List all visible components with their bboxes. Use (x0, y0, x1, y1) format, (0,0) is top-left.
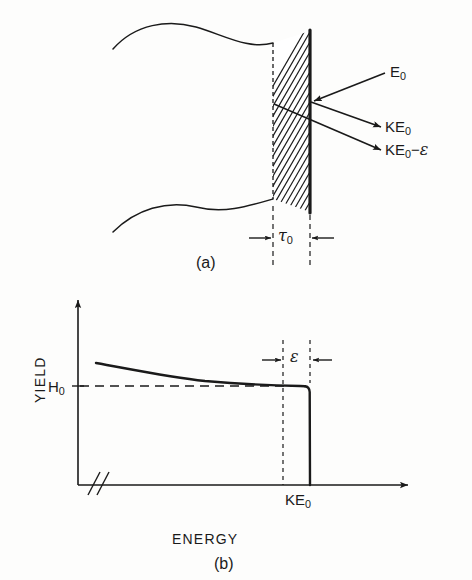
y-axis-label: YIELD (33, 357, 47, 403)
tau-symbol: τ (278, 226, 287, 245)
caption-panel-b: (b) (214, 556, 234, 572)
incident-beam-arrow (314, 73, 385, 101)
epsilon-symbol-panel-a: ɛ (420, 140, 429, 159)
panel-b-drawing (72, 300, 408, 495)
panel-a-drawing (113, 8, 385, 322)
figure-container: E0 KE0 KE0−ɛ τ0 (a) YIELD H0 ɛ KE0 ENERG… (0, 0, 472, 580)
label-depth-scattered-energy: KE0−ɛ (385, 142, 428, 160)
yield-edge-drop (305, 386, 310, 485)
x-tick-label-ke0: KE0 (285, 492, 311, 510)
label-epsilon-width: ɛ (290, 349, 299, 365)
sample-top-edge (113, 23, 273, 49)
surface-scatter-arrow (311, 102, 381, 127)
figure-drawing (0, 0, 472, 580)
y-tick-label-h0: H0 (48, 379, 65, 397)
label-surface-scattered-energy: KE0 (385, 119, 411, 137)
x-axis-label: ENERGY (172, 532, 238, 546)
label-layer-thickness: τ0 (278, 228, 293, 246)
label-incident-energy: E0 (390, 64, 406, 82)
caption-panel-a: (a) (196, 255, 216, 271)
x-axis-break-mark (88, 472, 109, 495)
sample-bottom-edge (113, 199, 273, 232)
yield-curve (96, 363, 305, 386)
